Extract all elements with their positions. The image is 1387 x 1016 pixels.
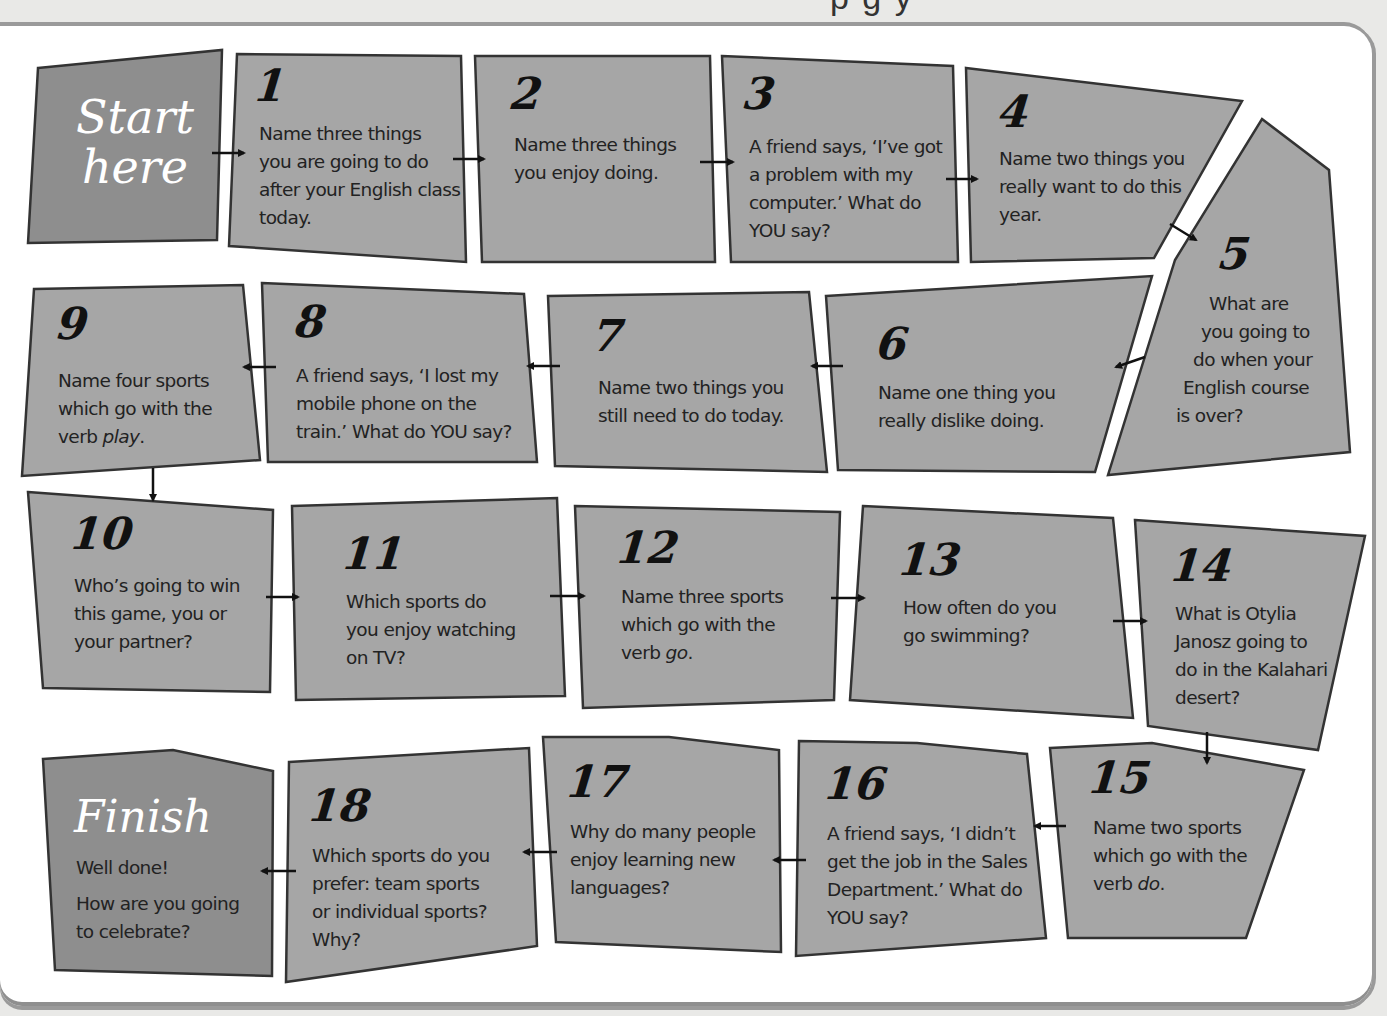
question-line: Name four sports [58, 367, 212, 395]
square-question: How often do you go swimming? [903, 594, 1056, 650]
square-number: 4 [997, 86, 1033, 137]
question-line: really want to do this [999, 173, 1185, 201]
question-line: which go with the [621, 611, 783, 639]
question-line: How often do you [903, 594, 1056, 622]
square-number: 15 [1087, 752, 1154, 803]
question-line: you are going to do [259, 148, 460, 176]
question-line: do in the Kalahari [1175, 656, 1328, 684]
question-line: What are [1176, 290, 1312, 318]
square-number: 5 [1217, 228, 1253, 279]
question-line: verb do. [1093, 870, 1247, 898]
emphasized-verb: play [103, 426, 140, 447]
square-number: 1 [253, 60, 289, 111]
start-line-1: Start [60, 92, 210, 142]
question-line: really dislike doing. [878, 407, 1055, 435]
square-number: 3 [742, 68, 778, 119]
question-line: prefer: team sports [312, 870, 490, 898]
question-line: What is Otylia [1175, 600, 1328, 628]
square-question: Name two sports which go with the verb d… [1093, 814, 1247, 898]
question-line: Name two things you [999, 145, 1185, 173]
question-text: verb [1093, 873, 1138, 894]
square-number: 6 [875, 318, 911, 369]
question-text: . [1159, 873, 1164, 894]
question-text: . [139, 426, 144, 447]
square-number: 7 [591, 310, 627, 361]
square-question: A friend says, ‘I lost my mobile phone o… [296, 362, 512, 446]
square-number: 18 [307, 780, 374, 831]
square-number: 13 [897, 534, 964, 585]
square-number: 16 [823, 758, 890, 809]
question-line: English course [1176, 374, 1312, 402]
question-text: verb [621, 642, 666, 663]
question-line: Department.’ What do [827, 876, 1027, 904]
question-line: computer.’ What do [749, 189, 942, 217]
square-question: Why do many people enjoy learning new la… [570, 818, 756, 902]
question-line: Name three things [259, 120, 460, 148]
question-line: which go with the [1093, 842, 1247, 870]
square-question: Name three things you enjoy doing. [514, 131, 676, 187]
question-line: get the job in the Sales [827, 848, 1027, 876]
question-line: a problem with my [749, 161, 942, 189]
square-question: Name three things you are going to do af… [259, 120, 460, 232]
question-text: . [687, 642, 692, 663]
question-line: mobile phone on the [296, 390, 512, 418]
question-line: Why? [312, 926, 490, 954]
question-line: year. [999, 201, 1185, 229]
question-line: Name one thing you [878, 379, 1055, 407]
square-number: 11 [341, 528, 408, 579]
question-line: your partner? [74, 628, 240, 656]
finish-line-2: How are you going [76, 890, 239, 918]
finish-text: Well done! How are you going to celebrat… [76, 854, 239, 946]
question-line: today. [259, 204, 460, 232]
question-line: languages? [570, 874, 756, 902]
question-text: verb [58, 426, 103, 447]
finish-line-1: Well done! [76, 854, 239, 882]
question-line: enjoy learning new [570, 846, 756, 874]
question-line: Which sports do you [312, 842, 490, 870]
question-line: Why do many people [570, 818, 756, 846]
square-number: 17 [565, 756, 632, 807]
square-question: Which sports do you enjoy watching on TV… [346, 588, 516, 672]
square-question: A friend says, ‘I didn’t get the job in … [827, 820, 1027, 932]
question-line: you enjoy doing. [514, 159, 676, 187]
square-question: Name one thing you really dislike doing. [878, 379, 1055, 435]
square-question: A friend says, ‘I’ve got a problem with … [749, 133, 942, 245]
question-line: go swimming? [903, 622, 1056, 650]
square-number: 2 [509, 68, 545, 119]
question-line: do when your [1176, 346, 1312, 374]
question-line: you enjoy watching [346, 616, 516, 644]
question-line: YOU say? [827, 904, 1027, 932]
question-line: Name three things [514, 131, 676, 159]
square-number: 9 [55, 298, 91, 349]
question-line: which go with the [58, 395, 212, 423]
square-number: 8 [293, 296, 329, 347]
question-line: is over? [1176, 402, 1312, 430]
square-number: 12 [615, 522, 682, 573]
square-question: Name two things you really want to do th… [999, 145, 1185, 229]
question-line: still need to do today. [598, 402, 784, 430]
question-line: this game, you or [74, 600, 240, 628]
question-line: Name two sports [1093, 814, 1247, 842]
square-question: Name four sports which go with the verb … [58, 367, 212, 451]
question-line: desert? [1175, 684, 1328, 712]
emphasized-verb: go [666, 642, 688, 663]
square-question: What are you going to do when your Engli… [1176, 290, 1312, 430]
square-question: Who’s going to win this game, you or you… [74, 572, 240, 656]
square-question: Name three sports which go with the verb… [621, 583, 783, 667]
finish-line-3: to celebrate? [76, 918, 239, 946]
question-line: after your English class [259, 176, 460, 204]
square-number: 14 [1169, 540, 1236, 591]
start-label: Start here [60, 92, 210, 192]
question-line: Which sports do [346, 588, 516, 616]
question-line: Janosz going to [1175, 628, 1328, 656]
question-line: Name two things you [598, 374, 784, 402]
start-line-2: here [60, 142, 210, 192]
square-number: 10 [69, 508, 136, 559]
finish-title: Finish [74, 792, 212, 842]
square-question: Which sports do you prefer: team sports … [312, 842, 490, 954]
square-6[interactable] [826, 276, 1152, 472]
question-line: train.’ What do YOU say? [296, 418, 512, 446]
question-line: verb play. [58, 423, 212, 451]
question-line: verb go. [621, 639, 783, 667]
question-line: on TV? [346, 644, 516, 672]
